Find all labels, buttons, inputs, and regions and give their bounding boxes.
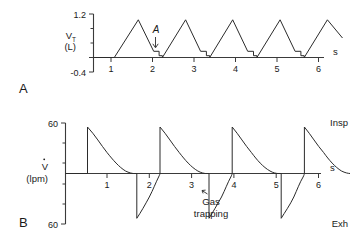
panel-b-insp-label: Insp [330, 117, 348, 128]
panel-a-xtick-4: 4 [233, 64, 238, 74]
panel-b-y-axis-title: V [42, 161, 49, 172]
panel-a-ymin-label: -0.4 [70, 68, 86, 78]
panel-b-xtick-1: 1 [104, 180, 109, 190]
panel-a: 1.2 -0.4 VT (L) 1 2 3 4 5 6 s A A [19, 10, 343, 97]
panel-a-y-ticks [89, 14, 94, 72]
panel-a-ymax-label: 1.2 [73, 10, 86, 20]
panel-b-xtick-4: 4 [231, 180, 236, 190]
panel-a-annotation-arrow [153, 37, 158, 48]
panel-b-ymax-label: 60 [48, 119, 58, 129]
panel-a-x-axis-label: s [333, 46, 338, 57]
panel-b-ymin-label: 60 [48, 220, 58, 230]
panel-b-x-axis-label: s [330, 162, 335, 173]
panel-b-xtick-3: 3 [189, 180, 194, 190]
panel-b-y-axis-dot [43, 158, 45, 160]
panel-b-letter: B [19, 215, 28, 230]
panel-a-xtick-1: 1 [108, 64, 113, 74]
panel-b-y-ticks [61, 123, 66, 224]
panel-b-x-ticks [107, 174, 319, 179]
panel-b-xtick-2: 2 [147, 180, 152, 190]
panel-a-y-axis-units: (L) [64, 41, 76, 52]
panel-b-gas-trapping-line2: trapping [194, 208, 228, 219]
panel-a-xtick-3: 3 [191, 64, 196, 74]
panel-a-x-ticks [111, 58, 319, 63]
panel-a-xtick-6: 6 [316, 64, 321, 74]
panel-b: 60 60 V (lpm) 1 2 3 4 5 6 s Insp Exh Gas… [19, 117, 350, 230]
panel-a-annotation-label: A [152, 24, 160, 35]
panel-b-exh-label: Exh [332, 218, 348, 229]
panel-a-xtick-5: 5 [274, 64, 279, 74]
respiratory-waveform-figure: 1.2 -0.4 VT (L) 1 2 3 4 5 6 s A A [0, 0, 354, 232]
panel-b-gas-trapping-arrow [202, 190, 208, 194]
panel-a-xtick-2: 2 [150, 64, 155, 74]
panel-a-volume-curve [94, 20, 343, 58]
panel-b-xtick-6: 6 [316, 180, 321, 190]
panel-b-gas-trapping-line1: Gas [202, 196, 220, 207]
panel-b-y-axis-units: (lpm) [26, 173, 48, 184]
panel-b-xtick-5: 5 [274, 180, 279, 190]
panel-a-letter: A [19, 81, 28, 96]
